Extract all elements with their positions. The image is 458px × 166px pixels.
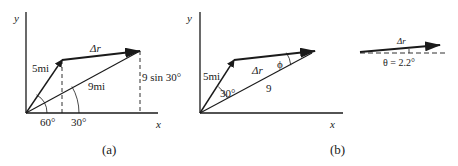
panel-c: Δr⃗ θ = 2.2° [360, 36, 447, 68]
panel-a: y x 5mi 9mi Δr⃗ 9 sin 30° 60° 30° (a) [13, 12, 181, 157]
angle-arc-30 [72, 87, 79, 114]
label-angle-30: 30° [220, 87, 235, 99]
vector-delta-r [234, 51, 315, 60]
label-5mi: 5mi [203, 70, 220, 82]
label-5mi: 5mi [32, 62, 49, 74]
caption-a: (a) [102, 142, 116, 157]
x-axis-label: x [155, 118, 161, 130]
label-delta-r: Δr⃗ [251, 64, 271, 76]
label-9: 9 [266, 82, 272, 94]
y-axis-label: y [13, 12, 19, 24]
label-angle-30: 30° [71, 116, 86, 128]
y-axis-label: y [186, 12, 192, 24]
vector-delta-r [360, 45, 440, 52]
label-delta-r: Δr⃗ [89, 42, 109, 54]
vector-9mi [26, 51, 140, 113]
label-9mi: 9mi [88, 80, 105, 92]
caption-b: (b) [330, 142, 345, 157]
vector-diagram: y x 5mi 9mi Δr⃗ 9 sin 30° 60° 30° (a) y … [0, 0, 458, 166]
panel-b: y x 5mi 9 Δr⃗ ϕ 30° (b) [186, 12, 345, 157]
label-9-sin-30: 9 sin 30° [142, 71, 181, 83]
label-theta: θ = 2.2° [383, 57, 415, 68]
label-phi: ϕ [277, 58, 283, 70]
label-angle-60: 60° [40, 116, 55, 128]
label-delta-r: Δr⃗ [396, 36, 413, 46]
x-axis-label: x [329, 118, 335, 130]
vector-9 [200, 53, 312, 113]
